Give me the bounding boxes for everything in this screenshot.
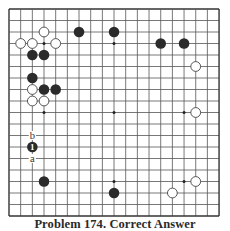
diagram-caption: Problem 174. Correct Answer: [0, 218, 230, 231]
black-stone: [74, 27, 85, 38]
white-stone: [191, 62, 201, 72]
black-stone: [39, 50, 50, 61]
black-stone: [155, 38, 166, 49]
white-stone: [27, 96, 37, 106]
black-stone: [50, 84, 61, 95]
star-point: [43, 42, 46, 45]
stone-move-number: 1: [30, 142, 35, 152]
black-stone: [27, 50, 38, 61]
black-stone: [39, 84, 50, 95]
star-point: [113, 180, 116, 183]
white-stone: [16, 39, 26, 49]
white-stone: [39, 96, 49, 106]
white-stone: [27, 85, 37, 95]
white-stone: [39, 27, 49, 37]
white-stone: [51, 39, 61, 49]
go-board-diagram: ba 1: [0, 0, 230, 218]
black-stone: [39, 176, 50, 187]
white-stone: [191, 108, 201, 118]
star-point: [183, 111, 186, 114]
letter-mark-a: a: [30, 153, 35, 164]
star-point: [113, 42, 116, 45]
black-stone: [109, 27, 120, 38]
star-point: [113, 111, 116, 114]
black-stone: [27, 73, 38, 84]
white-stone: [167, 188, 177, 198]
white-stone: [27, 39, 37, 49]
black-stone: [109, 188, 120, 199]
star-point: [43, 111, 46, 114]
black-stone: [179, 38, 190, 49]
star-point: [183, 180, 186, 183]
white-stone: [191, 177, 201, 187]
letter-mark-b: b: [30, 130, 35, 141]
